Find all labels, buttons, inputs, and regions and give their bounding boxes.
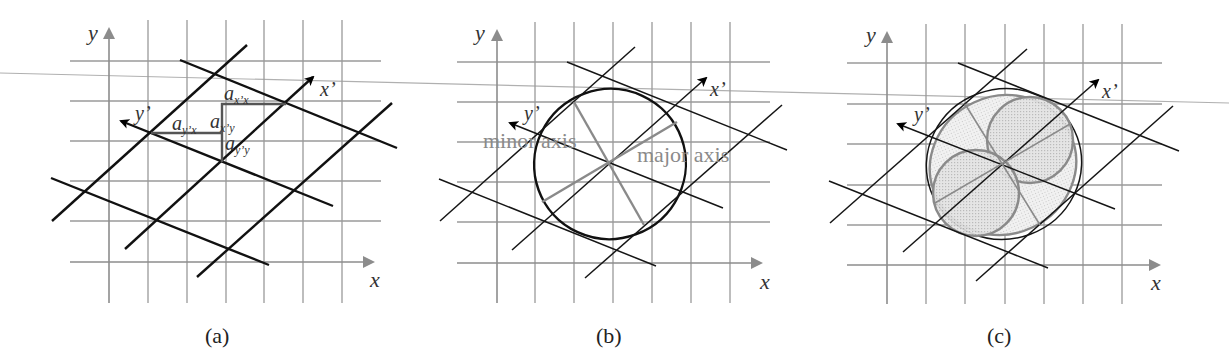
panel-a-caption: (a) [205, 323, 229, 348]
minor-axis-label: minor axis [483, 128, 577, 153]
x-axis-label: x [1150, 270, 1161, 295]
circle-lower [933, 150, 1019, 236]
y-axis-label: y [864, 22, 876, 47]
x-prime-label: x’ [319, 78, 336, 100]
panel-a: y x x’ y’ ax’x ay’x ax’y ay’y (a) [51, 20, 397, 348]
y-prime-label: y’ [522, 102, 540, 125]
x-axis-label: x [369, 267, 380, 292]
x-prime-label: x’ [1101, 80, 1118, 102]
x-axis-label: x [759, 269, 770, 294]
y-prime-label: y’ [133, 102, 151, 125]
y-axis-label: y [86, 20, 98, 45]
rotated-grid [829, 49, 1179, 281]
y-prime-label: y’ [912, 103, 930, 126]
panel-c: y x x’ y’ (c) [829, 22, 1179, 348]
rotated-grid [51, 45, 397, 277]
major-axis-label: major axis [637, 142, 729, 167]
y-axis-label: y [473, 20, 485, 45]
panel-b: y x x’ y’ minor axis major axis (b) [439, 20, 787, 348]
coef-a-ypx: ay’x [172, 112, 197, 137]
panel-b-caption: (b) [596, 323, 622, 348]
coef-a-ypy: ay’y [225, 132, 250, 157]
x-prime-label: x’ [709, 78, 726, 100]
figure-canvas: y x x’ y’ ax’x ay’x ax’y ay’y (a) [0, 0, 1229, 363]
panel-c-caption: (c) [987, 323, 1011, 348]
